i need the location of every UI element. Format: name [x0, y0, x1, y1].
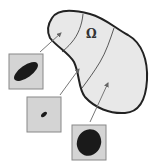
omega-label: Ω	[86, 27, 97, 41]
omega-region	[48, 11, 147, 113]
diagram-canvas	[0, 0, 155, 168]
inset-box-3	[72, 125, 106, 160]
inset-box-1	[9, 54, 43, 89]
arrow-2	[60, 69, 79, 95]
inset-box-2	[27, 97, 61, 132]
